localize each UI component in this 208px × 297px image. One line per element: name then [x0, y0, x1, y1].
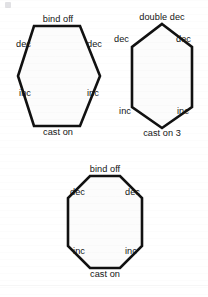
label-double-dec: double dec	[139, 12, 184, 22]
octagon-shape	[58, 170, 152, 276]
label-dec-upper-right: dec	[176, 34, 191, 44]
label-inc-lower-right: inc	[125, 246, 137, 256]
label-inc-lower-right: inc	[87, 88, 99, 98]
label-inc-lower-left: inc	[119, 106, 131, 116]
scan-artifact-mark	[5, 2, 11, 8]
label-dec-upper-left: dec	[70, 187, 85, 197]
label-bind-off: bind off	[43, 14, 73, 24]
label-bind-off: bind off	[90, 164, 120, 174]
label-inc-lower-left: inc	[73, 246, 85, 256]
figure-octagon: bind off dec dec inc inc cast on	[58, 170, 152, 276]
hexagon-flat-top-shape	[14, 20, 106, 132]
label-cast-on: cast on	[43, 127, 73, 137]
label-inc-lower-right: inc	[177, 106, 189, 116]
label-dec-upper-right: dec	[125, 187, 140, 197]
figure-hexagon-flat-top: bind off dec dec inc inc cast on	[14, 20, 106, 132]
label-inc-lower-left: inc	[19, 88, 31, 98]
diagram-canvas: bind off dec dec inc inc cast on double …	[0, 0, 208, 297]
label-dec-upper-left: dec	[16, 39, 31, 49]
label-cast-on: cast on	[90, 269, 120, 279]
bottom-divider-line	[0, 285, 208, 286]
label-cast-on-3: cast on 3	[143, 128, 181, 138]
figure-hexagon-pointy-top: double dec dec dec inc inc cast on 3	[126, 20, 198, 132]
label-dec-upper-right: dec	[87, 39, 102, 49]
label-dec-upper-left: dec	[114, 34, 129, 44]
